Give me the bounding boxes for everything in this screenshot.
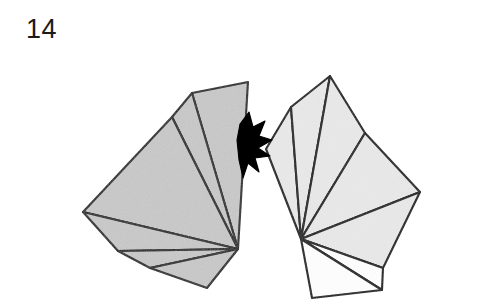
black-star-arrow-shape	[237, 112, 272, 178]
left-polygon-fan	[83, 82, 248, 288]
polygon-figure-canvas	[0, 0, 484, 308]
black-star-arrow	[237, 112, 272, 178]
figure-container: 14	[0, 0, 484, 308]
right-polygon-fan	[266, 76, 420, 298]
